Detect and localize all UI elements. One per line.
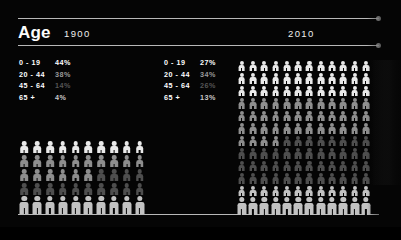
person-head <box>73 183 78 188</box>
person-icon <box>326 85 337 98</box>
person-icon <box>95 154 108 168</box>
person-head <box>124 196 129 201</box>
person-icon <box>304 72 315 85</box>
person-icon <box>281 72 292 85</box>
person-body <box>351 65 358 71</box>
legend-percent: 13% <box>200 92 216 104</box>
person-body <box>110 160 118 167</box>
person-icon <box>360 197 371 216</box>
person-icon <box>292 72 303 85</box>
person-body <box>261 102 268 108</box>
person-icon <box>247 122 258 135</box>
person-icon <box>69 182 82 196</box>
person-body <box>72 146 80 153</box>
person-head <box>86 155 91 160</box>
person-body <box>295 115 302 121</box>
person-head <box>318 197 323 202</box>
person-body <box>272 127 279 133</box>
person-body <box>340 165 347 171</box>
person-body <box>283 127 290 133</box>
person-body <box>250 140 257 146</box>
person-icon <box>349 197 360 216</box>
person-icon <box>338 110 349 123</box>
person-head <box>137 169 142 174</box>
person-head <box>60 183 65 188</box>
person-body <box>328 203 337 215</box>
person-body <box>97 202 106 214</box>
person-icon <box>304 122 315 135</box>
person-body <box>317 77 324 83</box>
person-icon <box>281 147 292 160</box>
person-head <box>22 196 27 201</box>
person-body <box>295 65 302 71</box>
person-icon <box>315 147 326 160</box>
person-body <box>59 174 67 181</box>
person-head <box>98 196 103 201</box>
legend-range: 65 + <box>19 92 55 104</box>
person-body <box>33 188 41 195</box>
person-head <box>112 169 117 174</box>
person-icon <box>236 97 247 110</box>
person-body <box>110 188 118 195</box>
person-icon <box>31 182 44 196</box>
person-icon <box>326 72 337 85</box>
person-body <box>340 127 347 133</box>
person-icon <box>259 197 270 216</box>
person-icon <box>360 60 371 73</box>
person-body <box>21 146 29 153</box>
person-head <box>137 183 142 188</box>
person-icon <box>338 172 349 185</box>
person-head <box>48 183 53 188</box>
person-icon <box>360 122 371 135</box>
person-icon <box>259 97 270 110</box>
person-icon <box>360 160 371 173</box>
person-body <box>361 203 370 215</box>
person-body <box>283 90 290 96</box>
person-icon <box>247 147 258 160</box>
person-icon <box>95 182 108 196</box>
person-body <box>294 203 303 215</box>
person-icon <box>338 147 349 160</box>
person-icon <box>247 160 258 173</box>
legend-1900: 0 - 19 44% 20 - 44 38% 45 - 64 14% 65 + … <box>19 57 71 103</box>
person-icon <box>292 60 303 73</box>
pictogram-grid-1900 <box>18 146 146 216</box>
person-head <box>35 183 40 188</box>
person-icon <box>259 85 270 98</box>
person-body <box>306 165 313 171</box>
person-body <box>71 202 80 214</box>
legend-row: 20 - 44 38% <box>19 69 71 81</box>
person-body <box>295 102 302 108</box>
person-body <box>272 102 279 108</box>
person-body <box>306 177 313 183</box>
person-icon <box>95 140 108 154</box>
person-head <box>352 197 357 202</box>
person-icon <box>259 147 270 160</box>
person-body <box>317 127 324 133</box>
person-body <box>122 202 131 214</box>
person-icon <box>247 185 258 198</box>
person-body <box>272 115 279 121</box>
person-icon <box>236 160 247 173</box>
person-body <box>46 160 54 167</box>
person-head <box>124 183 129 188</box>
column-label-2010: 2010 <box>288 28 315 39</box>
person-body <box>329 165 336 171</box>
person-icon <box>304 197 315 216</box>
person-head <box>60 196 65 201</box>
person-icon <box>18 196 31 216</box>
person-body <box>272 140 279 146</box>
legend-range: 45 - 64 <box>164 80 200 92</box>
person-body <box>363 65 370 71</box>
person-icon <box>281 172 292 185</box>
person-body <box>306 90 313 96</box>
person-body <box>317 140 324 146</box>
person-head <box>363 197 368 202</box>
person-icon <box>281 185 292 198</box>
person-icon <box>338 135 349 148</box>
person-icon <box>315 72 326 85</box>
person-body <box>317 177 324 183</box>
person-body <box>123 146 131 153</box>
person-icon <box>270 122 281 135</box>
person-icon <box>360 97 371 110</box>
